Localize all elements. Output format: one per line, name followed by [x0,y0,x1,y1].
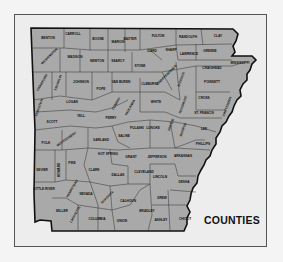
county-label: LEE [201,127,207,131]
county-label: BAXTER [123,37,137,41]
county-label: WHITE [151,100,161,104]
county-label: PERRY [106,116,118,120]
county-label: VAN BUREN [112,80,131,84]
county-label: SEARCY [111,59,125,63]
county-label: SCOTT [47,120,58,124]
county-label: BRADLEY [139,209,155,213]
map-title: COUNTIES [204,214,260,226]
county-label: CLEVELAND [134,170,154,174]
county-label: LITTLE RIVER [33,187,55,191]
county-label: PIKE [68,161,75,165]
county-label: SEVIER [36,168,48,172]
county-label: CROSS [198,96,209,100]
county-label: DREW [157,196,167,200]
county-label: GRANT [125,155,136,159]
county-label: JEFFERSON [147,155,167,159]
county-label: DESHA [178,180,190,184]
county-label: LINCOLN [153,175,168,179]
county-label: DALLAS [112,173,125,177]
county-label: ASHLEY [155,218,169,222]
county-label: BOONE [92,37,104,41]
county-label: CRAIGHEAD [202,66,222,70]
county-label: CLEBURNE [141,82,159,86]
county-label: UNION [117,219,128,223]
county-label: HOWARD [57,162,61,177]
county-label: SHARP [165,48,177,52]
county-label: MADISON [67,55,83,59]
county-label: BENTON [41,36,55,40]
county-label: CLAY [214,34,223,38]
county-label: CLARK [88,168,100,172]
county-label: NEWTON [90,59,105,63]
county-label: MISSISSIPPI [231,61,250,65]
county-label: ARKANSAS [174,154,192,158]
county-label: YELL [77,114,85,118]
county-label: ST. FRANCIS [194,111,214,115]
county-label: LONOKE [146,126,160,130]
county-label: POINSETT [204,80,220,84]
county-label: GREENE [203,49,216,53]
county-label: CHICOT [179,217,191,221]
county-label: SALINE [118,134,130,138]
county-label: HOT SPRING [98,152,118,156]
county-label: LAWRENCE [180,52,198,56]
county-label: POPE [97,87,106,91]
county-label: FULTON [152,34,165,38]
county-label: CARROLL [65,32,81,36]
county-label: PHILLIPS [196,142,210,146]
county-label: IZARD [147,49,157,53]
county-label: MILLER [56,209,69,213]
county-label: CALHOUN [120,199,137,203]
county-label: RANDOLPH [179,35,198,39]
county-label: POLK [42,141,52,145]
county-label: LOGAN [66,100,78,104]
county-label: JOHNSON [73,80,89,84]
county-label: NEVADA [79,192,93,196]
county-label: COLUMBIA [88,217,106,221]
county-label: GARLAND [93,138,110,142]
county-label: PULASKI [130,126,144,130]
county-label: STONE [135,64,146,68]
